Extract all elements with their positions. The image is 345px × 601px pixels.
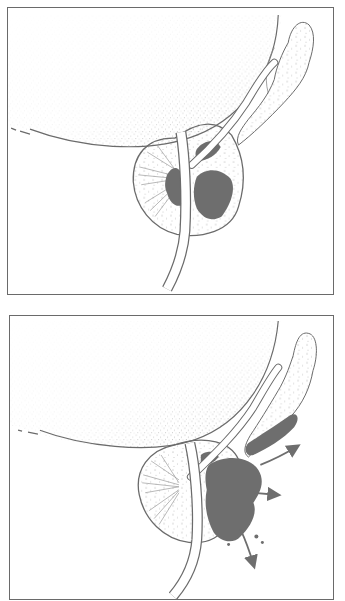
arrow-icon: [260, 447, 296, 465]
illustration-panel-top: Tumor confined within the prostate capsu…: [7, 7, 334, 295]
prostate-illustration-localized: [8, 8, 333, 294]
arrow-icon: [241, 529, 254, 564]
tumor-mass: [201, 414, 298, 546]
illustration-panel-bottom: Tumor extending beyond the prostate caps…: [9, 315, 334, 600]
bladder-shape: [8, 15, 281, 147]
prostate-illustration-extracapsular: [10, 316, 333, 599]
